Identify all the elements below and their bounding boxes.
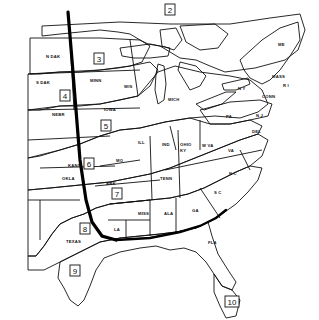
label-tenn: TENN	[160, 176, 172, 181]
label-va: VA	[228, 148, 234, 153]
label-mass: MASS	[272, 74, 285, 79]
zone-4-box: 4	[60, 90, 70, 101]
label-wva: W VA	[202, 143, 213, 148]
lake-huron	[178, 62, 206, 90]
label-fla: FLA	[208, 240, 217, 245]
lake-ontario	[222, 78, 250, 90]
label-minn: MINN	[90, 78, 102, 83]
label-kans: KANS	[68, 163, 81, 168]
label-ndak: N DAK	[46, 54, 60, 59]
label-miss: MISS	[138, 211, 149, 216]
svg-text:7: 7	[115, 190, 120, 199]
zone-5-box: 5	[101, 120, 111, 131]
label-ala: ALA	[164, 211, 173, 216]
lake-michigan	[155, 64, 166, 104]
svg-text:6: 6	[87, 160, 92, 169]
label-la: LA	[114, 227, 120, 232]
pennsylvania-zone-6	[200, 100, 272, 124]
zone-10-box: 10	[225, 296, 239, 307]
label-sc: S C	[214, 190, 222, 195]
zone-4-region	[28, 62, 158, 110]
label-ga: GA	[192, 208, 199, 213]
label-ky: KY	[180, 148, 186, 153]
label-nebr: NEBR	[52, 112, 65, 117]
label-ny: N Y	[238, 86, 246, 91]
label-nc: N C	[229, 171, 237, 176]
zone-6-box: 6	[84, 158, 94, 169]
label-ill: ILL	[138, 140, 145, 145]
northeast-zone-4	[240, 22, 300, 84]
zone-2-region	[42, 14, 305, 72]
lake-erie	[196, 92, 236, 110]
label-me: ME	[278, 42, 285, 47]
label-wis: WIS	[124, 84, 133, 89]
label-sdak: S DAK	[36, 80, 50, 85]
label-pa: PA	[226, 114, 232, 119]
svg-text:3: 3	[97, 55, 102, 64]
zone-9-region	[58, 222, 236, 306]
hardiness-zone-map: 2 3 4 5 6 7 8 9 10 N DAK S DAK MINN WIS …	[0, 0, 319, 320]
label-iowa: IOWA	[104, 107, 116, 112]
canada-white-area	[180, 24, 228, 50]
zone-3-box: 3	[94, 53, 104, 64]
svg-text:8: 8	[83, 225, 88, 234]
label-ohio: OHIO	[180, 142, 192, 147]
label-del: DEL	[252, 129, 261, 134]
label-mich: MICH	[168, 97, 180, 102]
svg-text:2: 2	[168, 6, 173, 15]
label-ind: IND	[162, 142, 170, 147]
zone-8-box: 8	[80, 223, 90, 234]
label-conn: CONN	[262, 94, 275, 99]
label-ark: ARK	[106, 181, 116, 186]
svg-text:4: 4	[63, 92, 68, 101]
zone-2-box: 2	[165, 4, 175, 15]
svg-text:10: 10	[228, 298, 237, 307]
zone-9-box: 9	[70, 265, 80, 276]
label-ri: R I	[283, 83, 289, 88]
label-mo: MO	[116, 158, 124, 163]
svg-text:9: 9	[73, 267, 78, 276]
label-texas: TEXAS	[66, 239, 81, 244]
label-okla: OKLA	[62, 176, 75, 181]
svg-text:5: 5	[104, 122, 109, 131]
label-nj: N J	[256, 113, 264, 118]
zone-7-box: 7	[112, 188, 122, 199]
